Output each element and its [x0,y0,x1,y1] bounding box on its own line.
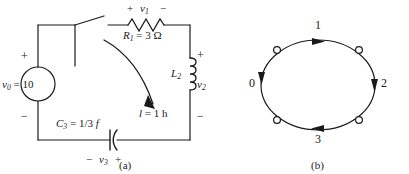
inductor-coil-icon [190,58,196,90]
resistor-symbol-letter: R [123,29,130,41]
capacitor-value-unit: f [96,117,99,129]
graph-diagram [258,38,378,132]
capacitor-voltage-subscript: 3 [104,158,108,167]
switch-blade [75,16,104,25]
graph-arrowhead-top [312,38,325,45]
resistor-polarity-minus: − [160,3,166,14]
graph-edge-label-1: 1 [315,19,321,31]
graph-edge-label-3: 3 [315,133,321,145]
graph-arrowhead-right [371,79,378,92]
capacitor-value-text: = 1/3 [67,117,96,129]
inductor-polarity-minus: − [197,110,204,122]
capacitor-voltage-label: v3 [99,154,108,166]
source-value-text: = 10 [11,78,34,90]
current-arrow-group [104,40,155,109]
graph-arrowhead-left [258,72,265,85]
capacitor-value-label: C3 = 1/3 f [56,118,99,130]
graph-node-upper-left [274,47,281,54]
inductor-polarity-plus: + [197,49,204,61]
resistor-value-text: = 3 Ω [134,29,162,41]
inductor-label: L2 [171,68,181,80]
inductor-value-label: l = 1 h [139,108,168,119]
graph-node-upper-right [356,47,363,54]
inductor-voltage-subscript: 2 [202,83,206,92]
inductor-symbol-subscript: 2 [177,72,181,81]
resistor-voltage-subscript: 1 [145,7,149,16]
inductor-value-text: = 1 h [142,107,167,119]
circuit-schematic [21,16,196,150]
source-polarity-plus: + [21,50,28,62]
graph-node-lower-right [356,117,363,124]
circuit-caption: (a) [119,160,131,171]
graph-node-lower-left [274,117,281,124]
graph-edge-label-2: 2 [381,77,387,89]
graph-edge-label-0: 0 [249,77,255,89]
figure-container: + v1 − R1 = 3 Ω v0 = 10 + − L2 + v2 − l … [0,0,409,174]
resistor-voltage-label: v1 [140,3,149,15]
graph-arrowhead-bottom [311,125,324,132]
graph-caption: (b) [311,160,324,171]
resistor-value-label: R1 = 3 Ω [123,30,162,42]
source-polarity-minus: − [21,110,28,122]
curved-current-arrow-icon [104,40,153,104]
source-value-label: v0 = 10 [2,79,33,91]
inductor-voltage-label: v2 [197,79,206,91]
capacitor-polarity-minus: − [86,154,92,165]
resistor-polarity-plus: + [127,3,133,14]
